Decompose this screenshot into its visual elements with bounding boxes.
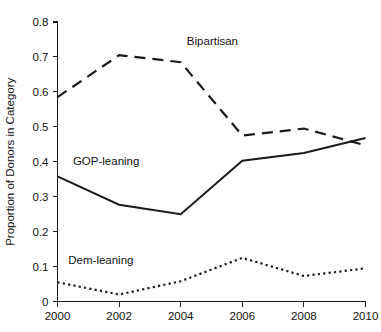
series-annotations: BipartisanGOP-leaningDem-leaning: [68, 35, 238, 266]
x-tick-label: 2006: [230, 310, 256, 322]
x-tick-label: 2002: [106, 310, 132, 322]
axis-titles: Proportion of Donors in Category: [4, 77, 16, 245]
y-axis-title: Proportion of Donors in Category: [4, 77, 16, 245]
y-axis: 00.10.20.30.40.50.60.70.8: [33, 16, 58, 308]
series-line-gop-leaning: [58, 138, 366, 214]
chart-container: 00.10.20.30.40.50.60.70.8 20002002200420…: [0, 0, 381, 332]
x-tick-label: 2000: [45, 310, 71, 322]
y-tick-label: 0.6: [33, 86, 49, 98]
series-label-dem-leaning: Dem-leaning: [68, 254, 133, 266]
y-tick-label: 0.3: [33, 191, 49, 203]
series-label-bipartisan: Bipartisan: [187, 35, 238, 47]
line-chart: 00.10.20.30.40.50.60.70.8 20002002200420…: [0, 0, 381, 332]
x-tick-label: 2010: [353, 310, 379, 322]
y-tick-label: 0: [42, 296, 48, 308]
series-label-gop-leaning: GOP-leaning: [73, 155, 139, 167]
x-tick-label: 2008: [291, 310, 317, 322]
y-tick-label: 0.2: [33, 226, 49, 238]
x-axis: 200020022004200620082010: [45, 302, 379, 322]
series-line-bipartisan: [58, 55, 366, 145]
y-tick-label: 0.7: [33, 51, 49, 63]
y-tick-label: 0.5: [33, 121, 49, 133]
y-tick-label: 0.1: [33, 261, 49, 273]
y-tick-label: 0.4: [33, 156, 50, 168]
x-tick-label: 2004: [168, 310, 194, 322]
y-tick-label: 0.8: [33, 16, 49, 28]
